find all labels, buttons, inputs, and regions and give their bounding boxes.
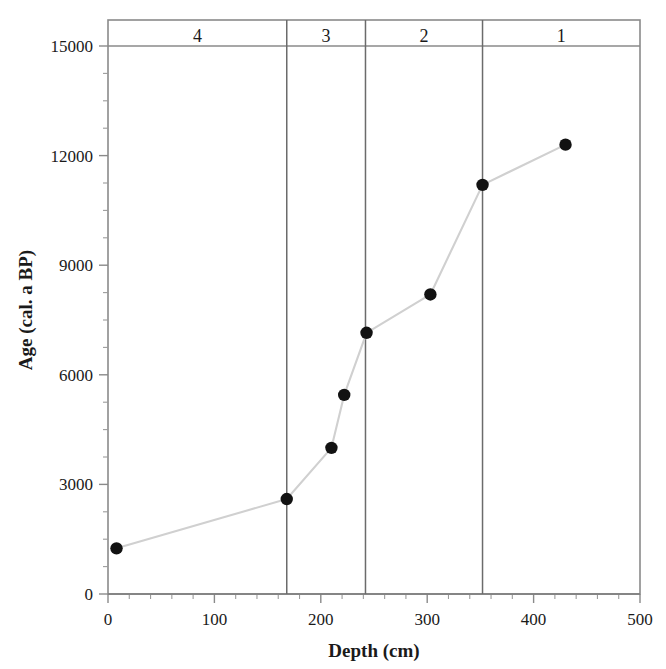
x-tick-label-200: 200 [308, 610, 334, 629]
y-axis-title: Age (cal. a BP) [15, 250, 37, 370]
chart-container: 4321 03000600090001200015000010020030040… [0, 0, 666, 669]
y-tick-label-15000: 15000 [51, 37, 94, 56]
data-point [360, 327, 372, 339]
plot-border-rect [108, 20, 640, 594]
age-depth-plot: 4321 03000600090001200015000010020030040… [0, 0, 666, 669]
x-tick-label-400: 400 [521, 610, 547, 629]
x-axis-title: Depth (cm) [328, 640, 419, 662]
y-tick-label-3000: 3000 [59, 475, 93, 494]
zone-label-4: 4 [193, 26, 202, 46]
data-point [476, 179, 488, 191]
x-tick-label-500: 500 [627, 610, 653, 629]
zone-label-1: 1 [557, 26, 566, 46]
data-point [110, 542, 122, 554]
zone-label-2: 2 [420, 26, 429, 46]
data-point [325, 442, 337, 454]
x-tick-label-300: 300 [414, 610, 440, 629]
data-point [338, 389, 350, 401]
y-tick-label-12000: 12000 [51, 147, 94, 166]
y-tick-label-0: 0 [85, 585, 94, 604]
axis-ticks [99, 46, 640, 603]
zone-dividers [287, 20, 483, 594]
plot-frame [108, 20, 640, 594]
data-series [110, 138, 571, 554]
y-tick-label-6000: 6000 [59, 366, 93, 385]
y-tick-label-9000: 9000 [59, 256, 93, 275]
zone-header-band: 4321 [108, 26, 640, 46]
zone-label-3: 3 [322, 26, 331, 46]
data-point [424, 288, 436, 300]
data-point [559, 138, 571, 150]
series-line-0 [117, 145, 566, 549]
x-tick-label-0: 0 [104, 610, 113, 629]
data-point [281, 493, 293, 505]
x-tick-label-100: 100 [202, 610, 228, 629]
